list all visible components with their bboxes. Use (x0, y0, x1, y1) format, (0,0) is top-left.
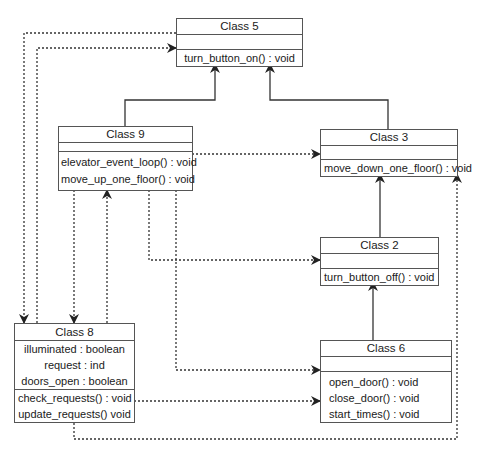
class-2-methods: turn_button_off() : void (321, 268, 438, 285)
class-5-name: Class 5 (177, 19, 302, 34)
class-2-attributes (321, 253, 438, 268)
class-9-name: Class 9 (59, 127, 192, 142)
method-check-requests: check_requests() : void (15, 390, 134, 406)
attr-request: request : ind (15, 357, 134, 373)
dep-9-to-2 (149, 190, 320, 260)
class-5-box[interactable]: Class 5 turn_button_on() : void (176, 18, 303, 67)
method-move-down-one-floor: move_down_one_floor() : void (321, 160, 457, 176)
method-update-requests: update_requests() void (15, 406, 134, 422)
class-6-box[interactable]: Class 6 open_door() : void close_door() … (320, 340, 452, 423)
class-8-attributes: illuminated : boolean request : ind door… (15, 340, 134, 389)
method-open-door: open_door() : void (321, 374, 451, 390)
method-elevator-event-loop: elevator_event_loop() : void (59, 152, 192, 170)
class-9-attributes (59, 142, 192, 151)
method-turn-button-on: turn_button_on() : void (177, 50, 302, 66)
class-2-box[interactable]: Class 2 turn_button_off() : void (320, 237, 439, 286)
class-3-methods: move_down_one_floor() : void (321, 159, 457, 176)
method-start-times: start_times() : void (321, 406, 451, 422)
attr-doors-open: doors_open : boolean (15, 373, 134, 389)
class-5-methods: turn_button_on() : void (177, 49, 302, 66)
class-3-attributes (321, 145, 457, 159)
method-turn-button-off: turn_button_off() : void (321, 269, 438, 285)
class-5-attributes (177, 34, 302, 49)
class-8-box[interactable]: Class 8 illuminated : boolean request : … (14, 323, 135, 423)
inheritance-3-to-5 (270, 64, 388, 129)
method-close-door: close_door() : void (321, 390, 451, 406)
method-move-up-one-floor: move_up_one_floor() : void (59, 170, 192, 190)
class-3-name: Class 3 (321, 130, 457, 145)
class-6-attributes (321, 356, 451, 371)
dep-9-to-6 (176, 190, 320, 370)
class-8-name: Class 8 (15, 324, 134, 340)
class-8-methods: check_requests() : void update_requests(… (15, 389, 134, 422)
class-9-methods: elevator_event_loop() : void move_up_one… (59, 151, 192, 190)
class-3-box[interactable]: Class 3 move_down_one_floor() : void (320, 129, 458, 177)
attr-illuminated: illuminated : boolean (15, 341, 134, 357)
inheritance-9-to-5 (125, 64, 215, 126)
class-6-methods: open_door() : void close_door() : void s… (321, 371, 451, 422)
class-9-box[interactable]: Class 9 elevator_event_loop() : void mov… (58, 126, 193, 191)
class-6-name: Class 6 (321, 341, 451, 356)
class-2-name: Class 2 (321, 238, 438, 253)
